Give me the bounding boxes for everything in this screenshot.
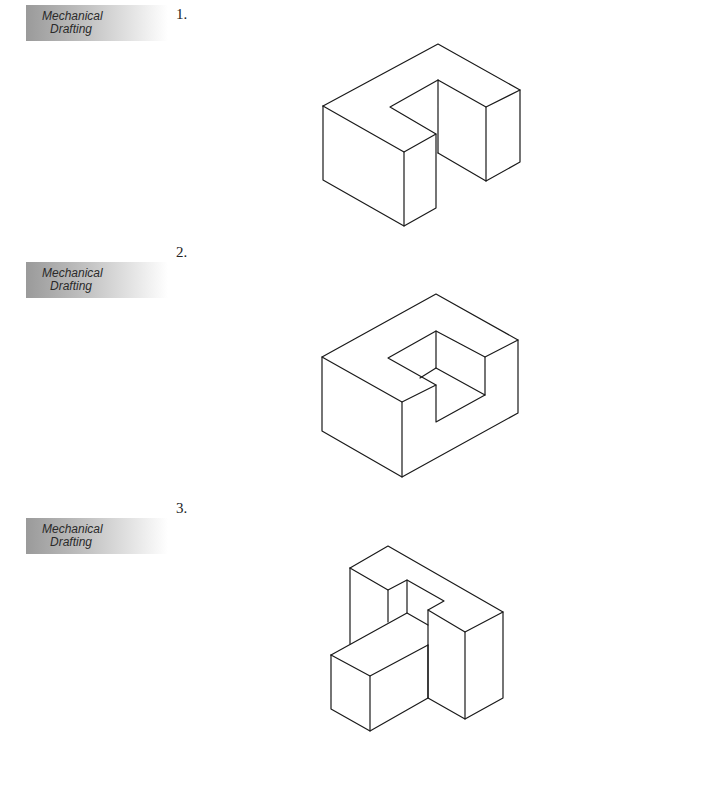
isometric-figure-3	[331, 546, 503, 731]
isometric-figure-2	[322, 294, 518, 477]
isometric-figure-1	[323, 44, 520, 226]
isometric-drawings	[0, 0, 707, 786]
